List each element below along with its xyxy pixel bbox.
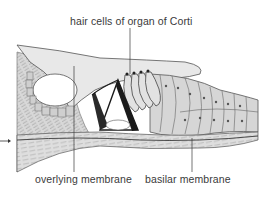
label-basilar-membrane: basilar membrane — [145, 173, 231, 185]
inner-pillar — [92, 92, 108, 130]
outer-epithelium — [150, 74, 258, 136]
label-hair-cells: hair cells of organ of Corti — [70, 15, 192, 27]
label-overlying-membrane: overlying membrane — [35, 173, 132, 185]
nuel-space — [106, 120, 130, 130]
diagram-illustration — [0, 0, 272, 200]
inner-sulcus — [33, 74, 77, 106]
arrow-right-icon — [0, 139, 11, 143]
organ-of-corti-diagram: hair cells of organ of Corti overlying m… — [0, 0, 272, 200]
